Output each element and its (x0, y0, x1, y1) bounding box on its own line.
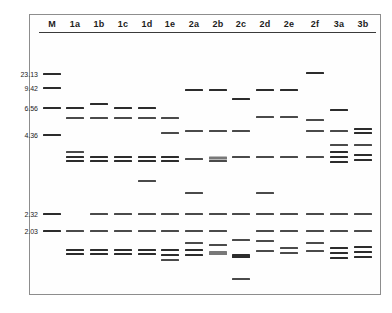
band-1a-8 (66, 151, 84, 153)
lane-header-1c: 1c (118, 19, 128, 29)
band-1c-29 (114, 253, 132, 255)
band-3a-105 (330, 257, 348, 259)
lane-header-2e: 2e (284, 19, 294, 29)
band-3a-98 (330, 151, 348, 153)
lane-header-2b: 2b (213, 19, 224, 29)
lane-header-2d: 2d (260, 19, 271, 29)
band-1b-17 (90, 160, 108, 162)
band-3b-111 (354, 213, 372, 215)
band-2f-89 (306, 130, 324, 132)
band-2c-68 (232, 213, 250, 215)
band-3a-99 (330, 156, 348, 158)
band-3b-114 (354, 251, 372, 253)
band-3b-108 (354, 144, 372, 146)
band-2d-77 (256, 230, 274, 232)
band-2a-54 (185, 242, 203, 244)
band-1e-40 (161, 132, 179, 134)
band-3a-103 (330, 247, 348, 249)
lane-header-1b: 1b (94, 19, 105, 29)
band-1d-37 (138, 249, 156, 251)
band-2a-53 (185, 230, 203, 232)
band-2b-58 (209, 130, 227, 132)
band-2b-61 (209, 213, 227, 215)
band-1b-20 (90, 249, 108, 251)
lane-header-2c: 2c (236, 19, 246, 29)
band-1e-43 (161, 213, 179, 215)
band-2b-63 (209, 244, 227, 246)
band-3a-104 (330, 252, 348, 254)
band-1e-41 (161, 156, 179, 158)
band-2c-70 (232, 254, 250, 258)
band-3a-101 (330, 213, 348, 215)
band-2b-64 (209, 251, 227, 255)
band-1b-14 (90, 103, 108, 105)
band-3b-109 (354, 154, 372, 156)
marker-label-6-56: 6.56 (0, 105, 38, 112)
band-3b-115 (354, 256, 372, 258)
band-1e-45 (161, 249, 179, 251)
band-2b-60 (209, 160, 227, 162)
band-2d-72 (256, 89, 274, 91)
band-2e-83 (280, 213, 298, 215)
band-1b-15 (90, 117, 108, 119)
band-2b-57 (209, 89, 227, 91)
band-1c-27 (114, 230, 132, 232)
band-2f-88 (306, 119, 324, 121)
band-2f-87 (306, 72, 324, 74)
band-2e-82 (280, 156, 298, 158)
band-1c-25 (114, 160, 132, 162)
band-1d-35 (138, 213, 156, 215)
band-1c-26 (114, 213, 132, 215)
gel-electrophoresis-figure: M1a1b1c1d1e2a2b2c2d2e2f3a3b 23.139.426.5… (0, 0, 392, 313)
band-2a-51 (185, 192, 203, 194)
lane-header-2a: 2a (189, 19, 199, 29)
band-2a-55 (185, 249, 203, 251)
band-2d-73 (256, 116, 274, 118)
band-2d-78 (256, 240, 274, 242)
band-1c-24 (114, 156, 132, 158)
marker-label-2-32: 2.32 (0, 211, 38, 218)
band-2f-91 (306, 213, 324, 215)
marker-label-2-03: 2.03 (0, 228, 38, 235)
band-2c-69 (232, 239, 250, 241)
band-3a-97 (330, 144, 348, 146)
band-m-0 (43, 73, 61, 75)
lane-header-2f: 2f (311, 19, 319, 29)
band-2d-76 (256, 213, 274, 215)
band-1c-23 (114, 117, 132, 119)
band-1e-47 (161, 259, 179, 261)
band-1a-11 (66, 230, 84, 232)
lane-header-3a: 3a (334, 19, 344, 29)
band-1d-31 (138, 117, 156, 119)
band-2c-65 (232, 98, 250, 100)
band-2e-86 (280, 252, 298, 254)
band-1d-38 (138, 253, 156, 255)
band-2f-90 (306, 156, 324, 158)
band-2a-56 (185, 254, 203, 256)
marker-label-4-36: 4.36 (0, 132, 38, 139)
band-1c-22 (114, 107, 132, 109)
band-1b-18 (90, 213, 108, 215)
band-3a-95 (330, 109, 348, 111)
band-2d-75 (256, 192, 274, 194)
band-2c-66 (232, 130, 250, 132)
band-3b-112 (354, 230, 372, 232)
band-1e-44 (161, 230, 179, 232)
band-2d-79 (256, 250, 274, 252)
band-1d-30 (138, 107, 156, 109)
band-m-1 (43, 87, 61, 89)
band-1e-42 (161, 160, 179, 162)
band-2e-84 (280, 230, 298, 232)
band-m-5 (43, 230, 61, 232)
band-2c-71 (232, 278, 250, 280)
band-1a-9 (66, 156, 84, 158)
band-1d-33 (138, 160, 156, 162)
marker-label-9-42: 9.42 (0, 85, 38, 92)
band-m-4 (43, 213, 61, 215)
band-2f-93 (306, 242, 324, 244)
band-m-2 (43, 107, 61, 109)
lane-header-underline (39, 32, 376, 33)
marker-label-23-13: 23.13 (0, 71, 38, 78)
band-2e-80 (280, 89, 298, 91)
lane-header-3b: 3b (358, 19, 369, 29)
